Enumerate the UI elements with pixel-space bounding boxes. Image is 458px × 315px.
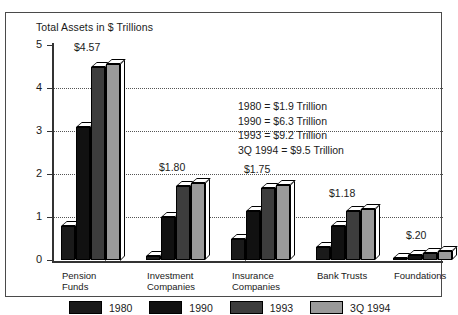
bar-face	[161, 217, 175, 260]
category-label-line: Companies	[147, 281, 195, 292]
bar-face	[331, 226, 345, 260]
annotation-block: 1980 = $1.9 Trillion1990 = $6.3 Trillion…	[238, 99, 344, 157]
bar-face	[146, 256, 160, 260]
bar-face	[76, 127, 90, 260]
bar-1980	[61, 226, 75, 260]
bar-1980	[146, 256, 160, 260]
bar-side	[290, 180, 295, 260]
bar-1990	[246, 211, 260, 260]
y-tick-label: 5	[26, 38, 42, 50]
chart-legend: 1980199019933Q 1994	[69, 301, 407, 314]
bar-face	[91, 67, 105, 261]
bar-1990	[161, 217, 175, 260]
y-tick-label: 3	[26, 124, 42, 136]
category-label-line: Foundations	[394, 270, 446, 281]
bar-side	[375, 204, 380, 260]
data-label: $1.75	[244, 163, 270, 175]
category-label-line: Insurance	[232, 270, 280, 281]
y-tick-label: 4	[26, 81, 42, 93]
legend-swatch	[230, 301, 263, 314]
legend-swatch	[69, 301, 102, 314]
bar-1993	[423, 253, 437, 260]
bar-face	[423, 253, 437, 260]
bar-face	[438, 251, 452, 260]
annotation-line: 1990 = $6.3 Trillion	[238, 114, 344, 129]
bar-3q-1994	[438, 251, 452, 260]
category-label-line: Bank Trusts	[317, 270, 367, 281]
bar-face	[106, 64, 120, 261]
category-label-line: Funds	[62, 281, 96, 292]
legend-swatch	[310, 301, 343, 314]
bar-3q-1994	[106, 64, 120, 261]
data-label: $1.80	[159, 161, 185, 173]
data-label: $.20	[406, 229, 426, 241]
legend-label: 3Q 1994	[350, 302, 390, 314]
legend-swatch	[149, 301, 182, 314]
data-label: $4.57	[74, 41, 100, 53]
bar-3q-1994	[191, 183, 205, 260]
category-label: Bank Trusts	[317, 270, 367, 281]
category-label: PensionFunds	[62, 270, 96, 292]
bar-face	[316, 247, 330, 260]
annotation-line: 3Q 1994 = $9.5 Trillion	[238, 143, 344, 158]
bar-1993	[261, 188, 275, 260]
bar-face	[191, 183, 205, 260]
bar-face	[261, 188, 275, 260]
category-label-line: Investment	[147, 270, 195, 281]
chart-frame: Total Assets in $ Trillions 012345 1980 …	[5, 12, 442, 297]
bar-face	[231, 239, 245, 261]
y-tick-label: 1	[26, 210, 42, 222]
legend-item: 3Q 1994	[310, 301, 390, 314]
bar-3q-1994	[276, 185, 290, 260]
bar-face	[176, 186, 190, 260]
bar-face	[276, 185, 290, 260]
bar-face	[408, 255, 422, 260]
category-label-line: Pension	[62, 270, 96, 281]
data-label: $1.18	[329, 187, 355, 199]
category-label-line: Companies	[232, 281, 280, 292]
bar-face	[346, 211, 360, 260]
legend-item: 1990	[149, 301, 212, 314]
annotation-line: 1993 = $9.2 Trillion	[238, 128, 344, 143]
bar-1993	[346, 211, 360, 260]
bar-1990	[408, 255, 422, 260]
bar-1980	[393, 258, 407, 260]
bar-1990	[76, 127, 90, 260]
legend-item: 1993	[230, 301, 293, 314]
annotation-line: 1980 = $1.9 Trillion	[238, 99, 344, 114]
chart-title: Total Assets in $ Trillions	[36, 21, 153, 33]
bar-1990	[331, 226, 345, 260]
bar-1980	[231, 239, 245, 261]
bar-3q-1994	[361, 209, 375, 260]
bar-1980	[316, 247, 330, 260]
y-tick-label: 0	[26, 253, 42, 265]
category-label: InvestmentCompanies	[147, 270, 195, 292]
y-tick-mark	[47, 260, 53, 261]
y-tick-label: 2	[26, 167, 42, 179]
legend-item: 1980	[69, 301, 132, 314]
bar-1993	[176, 186, 190, 260]
bar-face	[246, 211, 260, 260]
x-axis-line	[52, 261, 443, 263]
legend-label: 1980	[109, 302, 132, 314]
bar-1993	[91, 67, 105, 261]
legend-label: 1990	[189, 302, 212, 314]
category-label: InsuranceCompanies	[232, 270, 280, 292]
bar-face	[361, 209, 375, 260]
legend-label: 1993	[270, 302, 293, 314]
category-label: Foundations	[394, 270, 446, 281]
bar-face	[393, 258, 407, 260]
bar-face	[61, 226, 75, 260]
bar-side	[205, 178, 210, 260]
bar-side	[120, 59, 125, 261]
